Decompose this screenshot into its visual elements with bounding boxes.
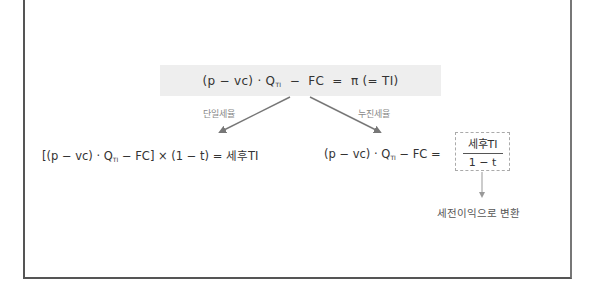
left-formula-prefix: [(p − vc) · Q: [42, 149, 113, 163]
right-formula-prefix: (p − vc) · Q: [324, 147, 390, 161]
fraction-denominator: 1 − t: [469, 154, 497, 169]
fraction-box: 세후TI 1 − t: [455, 132, 510, 171]
progressive-rate-label: 누진세율: [358, 107, 390, 120]
progressive-rate-formula: (p − vc) · QTI − FC =: [324, 147, 441, 161]
fraction-numerator: 세후TI: [463, 135, 503, 154]
right-formula-suffix: − FC =: [396, 147, 441, 161]
flat-rate-label: 단일세율: [203, 107, 235, 120]
flat-rate-formula: [(p − vc) · QTI − FC] × (1 − t) = 세후TI: [42, 147, 258, 163]
convert-note: 세전이익으로 변환: [437, 205, 520, 220]
left-formula-suffix: − FC] × (1 − t) = 세후TI: [118, 149, 258, 163]
